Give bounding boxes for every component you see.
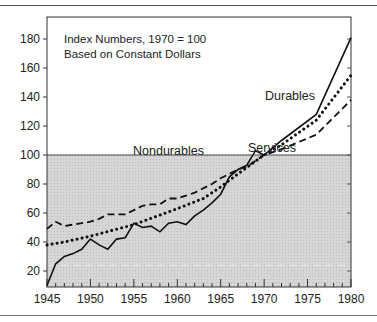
nondurables-label: Nondurables	[133, 144, 204, 158]
durables-label: Durables	[265, 89, 315, 103]
y-tick-label: 80	[27, 177, 41, 191]
annotation-line-1: Index Numbers, 1970 = 100	[64, 33, 206, 45]
line-chart: 20406080100120140160180 1945195019551960…	[0, 0, 377, 322]
y-tick-label: 100	[20, 148, 40, 162]
y-tick-label: 20	[27, 264, 41, 278]
y-tick-label: 140	[20, 90, 40, 104]
y-tick-label: 40	[27, 235, 41, 249]
y-tick-label: 180	[20, 32, 40, 46]
x-tick-label: 1965	[207, 292, 234, 306]
x-tick-label: 1955	[121, 292, 148, 306]
annotation-line-2: Based on Constant Dollars	[64, 48, 201, 60]
y-tick-label: 60	[27, 206, 41, 220]
x-tick-label: 1980	[338, 292, 365, 306]
x-tick-label: 1975	[294, 292, 321, 306]
y-tick-label: 160	[20, 61, 40, 75]
x-tick-label: 1945	[34, 292, 61, 306]
x-tick-label: 1950	[77, 292, 104, 306]
services-label: Services	[248, 141, 296, 155]
y-tick-label: 120	[20, 119, 40, 133]
x-tick-label: 1970	[251, 292, 278, 306]
x-tick-label: 1960	[164, 292, 191, 306]
series-labels: Index Numbers, 1970 = 100 Based on Const…	[64, 33, 315, 158]
